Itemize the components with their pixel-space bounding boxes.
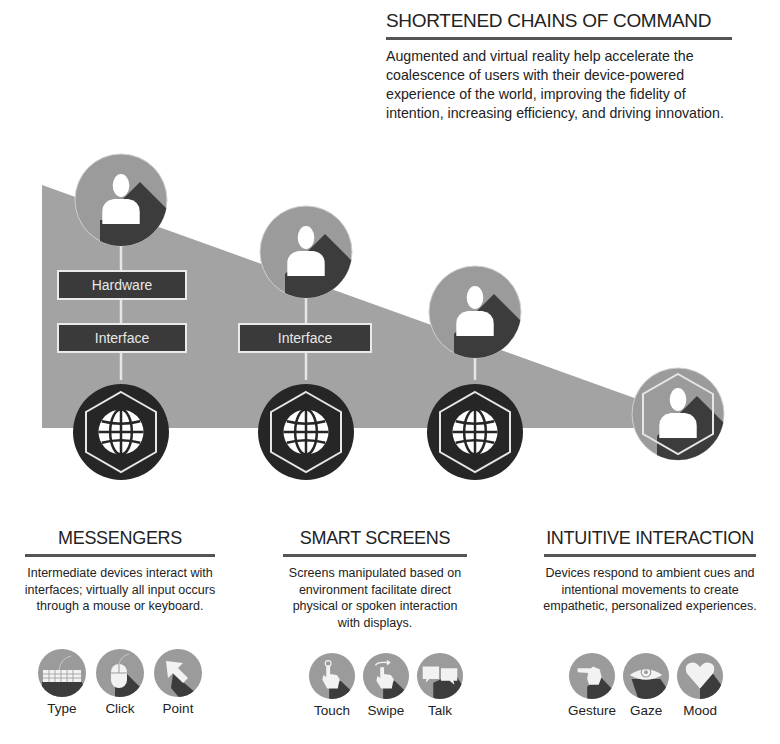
speech-bubbles-icon bbox=[416, 652, 464, 700]
globe-icon bbox=[258, 384, 354, 480]
icon-talk: Talk bbox=[416, 652, 464, 718]
section-intuitive-interaction: INTUITIVE INTERACTION Devices respond to… bbox=[542, 528, 758, 615]
icon-gesture: Gesture bbox=[568, 652, 616, 718]
interface-box: Interface bbox=[238, 323, 372, 353]
command-chain-diagram bbox=[0, 0, 780, 520]
section-description: Screens manipulated based on environment… bbox=[282, 565, 468, 631]
section-description: Devices respond to ambient cues and inte… bbox=[542, 565, 758, 615]
icon-click: Click bbox=[95, 648, 145, 716]
icon-swipe: Swipe bbox=[362, 652, 410, 718]
pointing-hand-icon bbox=[568, 652, 616, 700]
smart-screens-icons: Touch Swipe Talk bbox=[308, 652, 464, 718]
globe-icon bbox=[73, 384, 169, 480]
icon-label: Swipe bbox=[368, 703, 405, 718]
icon-point: Point bbox=[153, 648, 203, 716]
icon-label: Click bbox=[105, 701, 134, 716]
icon-label: Mood bbox=[683, 703, 717, 718]
heart-icon bbox=[676, 652, 724, 700]
touch-hand-icon bbox=[308, 652, 356, 700]
swipe-hand-icon bbox=[362, 652, 410, 700]
icon-label: Type bbox=[47, 701, 76, 716]
mouse-icon bbox=[95, 648, 145, 698]
interface-box: Interface bbox=[57, 323, 187, 353]
section-title: INTUITIVE INTERACTION bbox=[542, 528, 758, 549]
section-messengers: MESSENGERS Intermediate devices interact… bbox=[22, 528, 218, 615]
hardware-box: Hardware bbox=[57, 270, 187, 300]
intuitive-interaction-icons: Gesture Gaze Mood bbox=[568, 652, 724, 718]
section-smart-screens: SMART SCREENS Screens manipulated based … bbox=[282, 528, 468, 631]
cursor-arrow-icon bbox=[153, 648, 203, 698]
icon-label: Gaze bbox=[630, 703, 662, 718]
section-divider bbox=[283, 554, 467, 557]
icon-label: Talk bbox=[428, 703, 452, 718]
globe-icon bbox=[427, 384, 523, 480]
icon-label: Point bbox=[163, 701, 194, 716]
section-title: MESSENGERS bbox=[22, 528, 218, 549]
icon-mood: Mood bbox=[676, 652, 724, 718]
keyboard-icon bbox=[37, 648, 87, 698]
eye-icon bbox=[622, 652, 670, 700]
icon-label: Touch bbox=[314, 703, 350, 718]
icon-label: Gesture bbox=[568, 703, 616, 718]
section-divider bbox=[544, 554, 756, 557]
icon-gaze: Gaze bbox=[622, 652, 670, 718]
section-divider bbox=[25, 554, 215, 557]
user-hexagon-icon bbox=[632, 368, 747, 486]
icon-touch: Touch bbox=[308, 652, 356, 718]
section-title: SMART SCREENS bbox=[282, 528, 468, 549]
icon-type: Type bbox=[37, 648, 87, 716]
section-description: Intermediate devices interact with inter… bbox=[22, 565, 218, 615]
messengers-icons: Type Click Point bbox=[37, 648, 203, 716]
